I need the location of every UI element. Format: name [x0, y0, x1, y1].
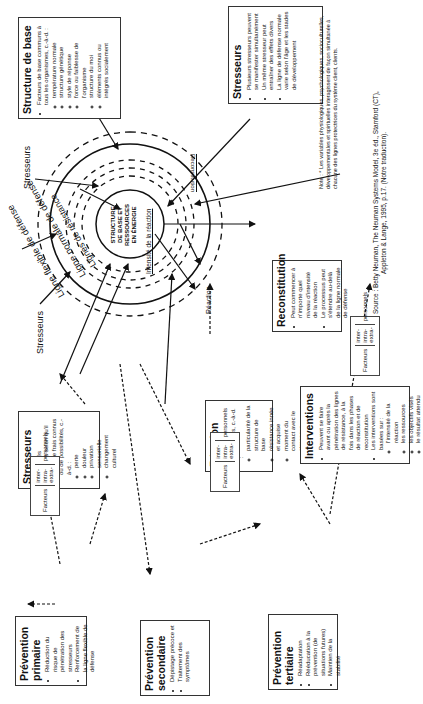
list-subitem: douleur: [81, 416, 89, 468]
list-item: Peut commencer à n'importe quel niveau d…: [290, 265, 320, 318]
factor-type: inter-: [355, 329, 361, 343]
list-item: Maintien de la stabilité: [327, 619, 342, 676]
factors-box-reconstitution: Facteurs inter-intra-extra- personnels: [350, 316, 380, 376]
factor-type: intra-: [42, 469, 48, 483]
primary-prevention-box: Prévention primaire Réduction du risque …: [15, 616, 87, 686]
tertiary-prevention-box: Prévention tertiaire Réadaptation Rééduc…: [268, 614, 338, 690]
list-item: Plusieurs stresseurs peuvent se manifest…: [246, 11, 261, 90]
list-subitem: le résultat attendu: [415, 391, 423, 443]
box-title: Reconstitution: [276, 265, 288, 327]
reconstitution-box: Reconstitution Peut commencer à n'import…: [272, 260, 342, 332]
list-subitem: changement culturel: [103, 416, 118, 468]
list-item: Traitement des symptômes: [177, 625, 192, 682]
secondary-prevention-box: Prévention secondaire Dépistage précoce …: [140, 620, 210, 696]
center-line: EN ÉNERGIE: [131, 204, 138, 246]
factor-type: intra-: [362, 329, 368, 343]
reaction-label: Réaction: [205, 286, 212, 314]
note: Note : * Les variables physiologiques, p…: [318, 9, 339, 189]
center-label: STRUCTURE DE BASE ET RESSOURCES EN ÉNERG…: [110, 204, 138, 246]
list-subitem: l'intensité de la réaction: [385, 391, 400, 443]
box-title: Structure de base: [22, 22, 34, 114]
factor-type: inter-: [215, 445, 221, 459]
basic-structure-box: Structure de base Facteurs de base commu…: [18, 17, 121, 119]
list-item: Peuvent se faire avant ou après la pénét…: [318, 391, 371, 450]
box-title: Prévention tertiaire: [272, 619, 295, 685]
note-label: Note :: [318, 174, 324, 189]
list-item: Réduction du risque de pénétration des s…: [44, 621, 74, 672]
box-title: Prévention primaire: [19, 621, 42, 681]
box-title: Stresseurs: [232, 11, 244, 99]
list-item: force ou faiblesse de l'organisme: [73, 22, 88, 98]
list-item: Rééducation à la prévention (de situatio…: [305, 619, 328, 676]
list-subitem: privation sensorielle: [88, 416, 103, 468]
stressors-label-top: Stresseurs: [22, 146, 32, 189]
list-item: Les interventions sont basées sur :: [370, 392, 384, 450]
list-item: Le processus peut s'étendre au-delà de l…: [320, 265, 350, 318]
note-text: * Les variables physiologiques, psycholo…: [318, 16, 338, 189]
factors-box-stressors: Facteurs inter-intra-extra- personnels: [30, 456, 60, 516]
list-item: Réadaptation: [297, 619, 305, 676]
list-item: température normale: [51, 22, 59, 98]
factors-suffix: personnels: [222, 408, 228, 437]
stressors-label-left: Stresseurs: [35, 311, 45, 354]
box-title: Prévention secondaire: [144, 625, 167, 691]
list-item: Un même stresseur peut entraîner des eff…: [261, 11, 276, 90]
list-item: style de réponse: [66, 22, 74, 98]
list-item: Dépistage précoce et: [169, 625, 177, 682]
interventions-box: Interventions Peuvent se faire avant ou …: [300, 386, 410, 464]
list-item: La ligne de défense normale varie selon …: [276, 11, 299, 90]
reconstitution-label: Reconstitution: [190, 154, 196, 192]
center-line: RESSOURCES: [124, 204, 131, 246]
list-subitem: les ressources: [400, 391, 408, 443]
source-citation: Source : Betty Neuman, The Neuman System…: [372, 91, 388, 314]
center-line: STRUCTURE: [110, 204, 117, 246]
factors-suffix: personnels: [42, 432, 48, 461]
list-item: particularité de la structure de base: [245, 405, 268, 451]
list-item: résistance innée et acquise: [268, 405, 283, 451]
factor-type: inter-: [35, 469, 41, 483]
factor-type: extra-: [48, 467, 54, 482]
factors-label: Facteurs: [42, 489, 48, 512]
reaction-intensity-label: Intensité de la réaction: [145, 209, 152, 274]
center-line: DE BASE ET: [117, 204, 124, 246]
source-line: Source : Betty Neuman, The Neuman System…: [372, 91, 380, 314]
box-intro: Facteurs de base communs à tous les orga…: [36, 26, 50, 105]
factor-type: intra-: [222, 445, 228, 459]
source-line: Appleton & Lange, 1995, p.17. (Notre tra…: [380, 91, 388, 314]
list-subitem: les objectifs visés: [408, 391, 416, 443]
stressors-summary-box: Stresseurs Plusieurs stresseurs peuvent …: [228, 6, 323, 104]
factors-box-reaction: Facteurs inter-intra-extra- personnels: [210, 432, 240, 492]
list-item: structure du moi: [88, 22, 96, 98]
list-subitem: perte: [73, 416, 81, 468]
factor-type: extra-: [368, 327, 374, 342]
list-item: Renforcement de la ligne flexible de déf…: [74, 621, 97, 672]
list-item: éléments connus ou intégrés socialement: [96, 22, 111, 98]
factor-type: extra-: [228, 443, 234, 458]
factors-label: Facteurs: [222, 465, 228, 488]
list-item: structure génétique: [58, 22, 66, 98]
factors-suffix: personnels: [362, 292, 368, 321]
box-title: Interventions: [304, 391, 316, 459]
factors-label: Facteurs: [362, 349, 368, 372]
